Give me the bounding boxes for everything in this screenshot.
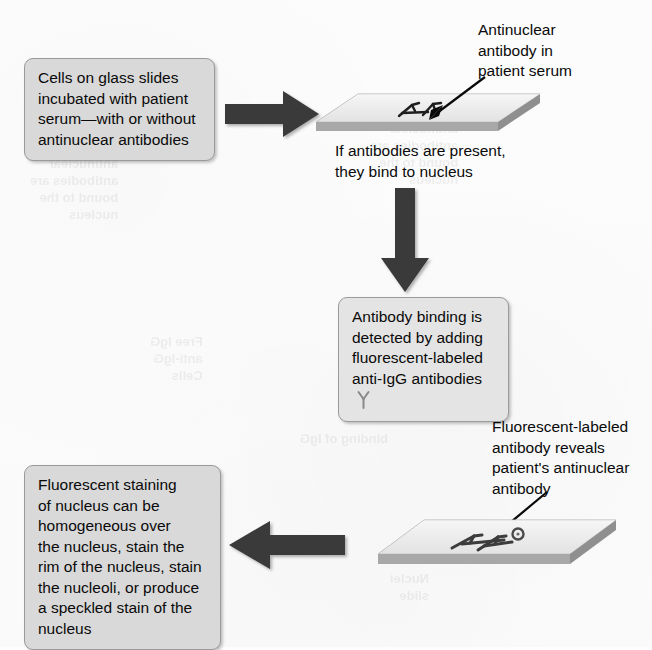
block-arrow-down-icon — [378, 188, 434, 293]
bleed-through-text: binding of IgG — [300, 430, 388, 447]
fluorescent-reveal-label: Fluorescent-labeled antibody reveals pat… — [492, 417, 629, 499]
step-2-callout-box: Antibody binding is detected by adding f… — [338, 297, 509, 422]
microscope-slide-icon — [378, 518, 616, 574]
step-2-text: Antibody binding is detected by adding f… — [352, 308, 483, 387]
antinuclear-antibody-label: Antinuclear antibody in patient serum — [478, 20, 572, 82]
antibody-y-icon — [356, 389, 371, 409]
block-arrow-left-icon — [228, 518, 346, 572]
bleed-through-text: Free IgG anti-IgG Cells — [150, 333, 203, 384]
binding-caption-label: If antibodies are present, they bind to … — [335, 141, 506, 182]
step-1-callout-box: Cells on glass slides incubated with pat… — [24, 58, 215, 161]
bleed-through-text: antinuclear antibodies are bound to the … — [30, 155, 118, 223]
step-3-callout-box: Fluorescent staining of nucleus can be h… — [24, 465, 221, 650]
microscope-slide-icon — [316, 92, 540, 142]
bleed-through-text: Nuclei slide — [390, 570, 429, 604]
block-arrow-right-icon — [225, 88, 320, 140]
